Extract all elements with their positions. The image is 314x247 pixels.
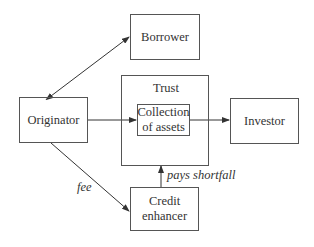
pays-shortfall-edge-label: pays shortfall — [167, 168, 235, 183]
edge-originator-credit-enhancer — [51, 143, 129, 211]
borrower-label: Borrower — [141, 30, 189, 45]
trust-label: Trust — [153, 81, 179, 96]
originator-label: Originator — [27, 113, 79, 128]
fee-edge-label: fee — [77, 180, 92, 195]
collection-node: Collection of assets — [137, 104, 190, 136]
investor-label: Investor — [244, 114, 285, 129]
collection-label-line2: of assets — [142, 120, 185, 135]
credit-enhancer-label-line1: Credit — [149, 194, 180, 209]
borrower-node: Borrower — [130, 14, 200, 60]
originator-node: Originator — [19, 97, 88, 143]
investor-node: Investor — [230, 98, 299, 144]
collection-label-line1: Collection — [137, 105, 189, 120]
credit-enhancer-label-line2: enhancer — [142, 209, 187, 224]
edge-originator-borrower — [51, 37, 129, 96]
credit-enhancer-node: Credit enhancer — [130, 187, 199, 231]
